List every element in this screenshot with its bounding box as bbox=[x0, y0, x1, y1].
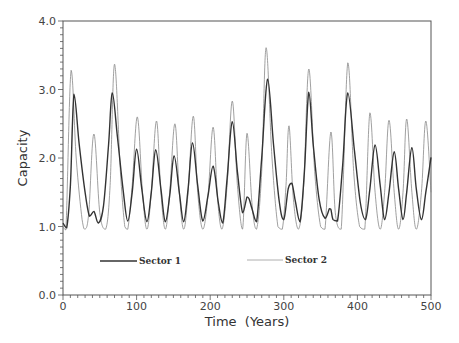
x-axis-ticks bbox=[63, 295, 431, 300]
y-tick-label: 4.0 bbox=[39, 15, 57, 28]
sector-1-line bbox=[63, 79, 431, 228]
y-tick-label: 3.0 bbox=[39, 84, 57, 97]
x-axis-tick-labels: 0100200300400500 bbox=[60, 300, 442, 313]
x-tick-label: 100 bbox=[126, 300, 147, 313]
y-axis-title: Capacity bbox=[15, 129, 30, 186]
series-lines bbox=[63, 48, 431, 230]
legend: Sector 1 Sector 2 bbox=[100, 255, 327, 266]
y-axis-ticks bbox=[58, 21, 63, 295]
legend-label-sector-2: Sector 2 bbox=[285, 255, 327, 265]
x-tick-label: 400 bbox=[347, 300, 368, 313]
x-tick-label: 300 bbox=[273, 300, 294, 313]
y-tick-label: 0.0 bbox=[39, 289, 57, 302]
y-axis-tick-labels: 0.01.02.03.04.0 bbox=[39, 15, 57, 302]
x-axis-title: Time (Years) bbox=[204, 314, 290, 329]
capacity-line-chart: 0.01.02.03.04.0 0100200300400500 Capacit… bbox=[0, 0, 459, 343]
plot-border bbox=[63, 21, 431, 295]
x-tick-label: 500 bbox=[421, 300, 442, 313]
legend-label-sector-1: Sector 1 bbox=[139, 256, 181, 266]
x-tick-label: 0 bbox=[60, 300, 67, 313]
plot-frame bbox=[63, 21, 431, 295]
y-tick-label: 2.0 bbox=[39, 152, 57, 165]
x-tick-label: 200 bbox=[200, 300, 221, 313]
y-tick-label: 1.0 bbox=[39, 221, 57, 234]
